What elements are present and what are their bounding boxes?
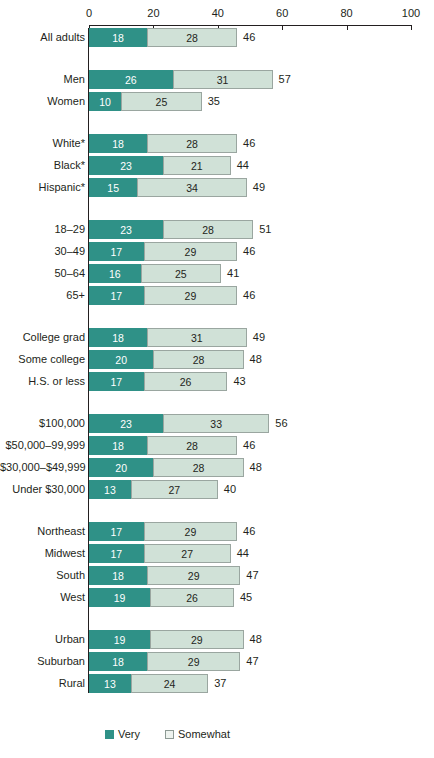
bar-segment-somewhat: 29 — [144, 242, 237, 261]
bar-segment-very: 23 — [89, 414, 163, 433]
bar-segment-somewhat: 29 — [144, 522, 237, 541]
bar-segment-somewhat: 28 — [147, 28, 237, 47]
stacked-bar: 1327 — [89, 480, 218, 499]
chart-row: $100,000233356 — [0, 414, 434, 433]
chart-rows: All adults182846Men263157Women102535Whit… — [0, 0, 434, 720]
chart-row: H.S. or less172643 — [0, 372, 434, 391]
bar-segment-somewhat: 28 — [163, 220, 253, 239]
bar-total-label: 46 — [243, 286, 255, 305]
stacked-bar: 2321 — [89, 156, 231, 175]
bar-segment-very: 17 — [89, 544, 144, 563]
bar-segment-somewhat: 28 — [147, 436, 237, 455]
bar-segment-somewhat: 29 — [147, 652, 240, 671]
stacked-bar: 1324 — [89, 674, 208, 693]
chart-legend: Very Somewhat — [0, 726, 434, 742]
bar-segment-somewhat: 29 — [147, 566, 240, 585]
bar-segment-very: 13 — [89, 674, 131, 693]
row-label: Midwest — [0, 544, 85, 563]
bar-total-label: 51 — [259, 220, 271, 239]
bar-total-label: 46 — [243, 522, 255, 541]
chart-row: Hispanic*153449 — [0, 178, 434, 197]
legend-item-very[interactable]: Very — [105, 726, 140, 742]
bar-segment-somewhat: 33 — [163, 414, 269, 433]
stacked-bar-chart: 020406080100 All adults182846Men263157Wo… — [0, 0, 434, 758]
legend-item-somewhat[interactable]: Somewhat — [165, 726, 230, 742]
stacked-bar: 2028 — [89, 458, 244, 477]
bar-segment-somewhat: 28 — [147, 134, 237, 153]
bar-segment-very: 18 — [89, 134, 147, 153]
bar-segment-somewhat: 31 — [173, 70, 273, 89]
bar-segment-very: 18 — [89, 652, 147, 671]
bar-segment-very: 17 — [89, 372, 144, 391]
chart-row: 50–64162541 — [0, 264, 434, 283]
bar-total-label: 41 — [227, 264, 239, 283]
row-label: Under $30,000 — [0, 480, 85, 499]
bar-total-label: 46 — [243, 242, 255, 261]
bar-segment-somewhat: 27 — [131, 480, 218, 499]
row-label: West — [0, 588, 85, 607]
chart-row: 18–29232851 — [0, 220, 434, 239]
bar-segment-very: 17 — [89, 286, 144, 305]
chart-row: Suburban182947 — [0, 652, 434, 671]
stacked-bar: 1025 — [89, 92, 202, 111]
row-label: $50,000–99,999 — [0, 436, 85, 455]
footnote-sliver — [4, 750, 304, 758]
bar-segment-somewhat: 29 — [144, 286, 237, 305]
row-label: South — [0, 566, 85, 585]
chart-row: 65+172946 — [0, 286, 434, 305]
legend-label-very: Very — [118, 728, 140, 740]
stacked-bar: 1929 — [89, 630, 244, 649]
bar-segment-very: 18 — [89, 436, 147, 455]
bar-segment-very: 23 — [89, 220, 163, 239]
bar-segment-very: 15 — [89, 178, 137, 197]
chart-row: Some college202848 — [0, 350, 434, 369]
chart-row: Women102535 — [0, 92, 434, 111]
bar-segment-somewhat: 24 — [131, 674, 208, 693]
bar-total-label: 49 — [253, 328, 265, 347]
bar-segment-very: 18 — [89, 328, 147, 347]
chart-row: Midwest172744 — [0, 544, 434, 563]
bar-segment-very: 10 — [89, 92, 121, 111]
bar-segment-very: 17 — [89, 242, 144, 261]
bar-segment-somewhat: 25 — [121, 92, 202, 111]
chart-row: West192645 — [0, 588, 434, 607]
chart-row: $30,000–$49,999202848 — [0, 458, 434, 477]
bar-segment-somewhat: 25 — [141, 264, 222, 283]
stacked-bar: 1828 — [89, 436, 237, 455]
stacked-bar: 1729 — [89, 522, 237, 541]
bar-segment-very: 18 — [89, 566, 147, 585]
row-label: Black* — [0, 156, 85, 175]
stacked-bar: 1729 — [89, 242, 237, 261]
row-label: White* — [0, 134, 85, 153]
bar-segment-somewhat: 34 — [137, 178, 246, 197]
row-label: Hispanic* — [0, 178, 85, 197]
row-label: Urban — [0, 630, 85, 649]
bar-total-label: 46 — [243, 28, 255, 47]
stacked-bar: 2333 — [89, 414, 269, 433]
stacked-bar: 2328 — [89, 220, 253, 239]
chart-row: Black*232144 — [0, 156, 434, 175]
row-label: Some college — [0, 350, 85, 369]
row-label: Women — [0, 92, 85, 111]
stacked-bar: 1726 — [89, 372, 227, 391]
row-label: Suburban — [0, 652, 85, 671]
bar-total-label: 44 — [237, 156, 249, 175]
bar-total-label: 37 — [214, 674, 226, 693]
row-label: Northeast — [0, 522, 85, 541]
bar-total-label: 44 — [237, 544, 249, 563]
row-label: H.S. or less — [0, 372, 85, 391]
chart-row: Northeast172946 — [0, 522, 434, 541]
bar-total-label: 46 — [243, 436, 255, 455]
bar-total-label: 46 — [243, 134, 255, 153]
bar-total-label: 48 — [250, 350, 262, 369]
bar-segment-very: 19 — [89, 588, 150, 607]
stacked-bar: 1534 — [89, 178, 247, 197]
stacked-bar: 1729 — [89, 286, 237, 305]
bar-segment-very: 18 — [89, 28, 147, 47]
bar-segment-somewhat: 28 — [153, 458, 243, 477]
stacked-bar: 1727 — [89, 544, 231, 563]
chart-row: All adults182846 — [0, 28, 434, 47]
row-label: Rural — [0, 674, 85, 693]
bar-segment-very: 16 — [89, 264, 141, 283]
bar-total-label: 40 — [224, 480, 236, 499]
